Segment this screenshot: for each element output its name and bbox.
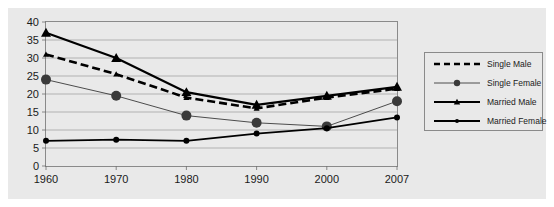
legend-item-single-male[interactable]: Single Male	[434, 59, 532, 69]
data-point	[181, 111, 191, 121]
y-tick-label: 20	[27, 88, 39, 100]
data-point	[111, 91, 121, 101]
series-single-male	[43, 51, 400, 110]
series-line	[46, 54, 397, 108]
legend-item-married-female[interactable]: Married Female	[434, 116, 547, 126]
x-tick-label: 1980	[174, 173, 198, 185]
line-chart: 0510152025303540 19601970198019902000200…	[0, 0, 554, 207]
data-point	[254, 131, 260, 137]
y-tick-label: 15	[27, 106, 39, 118]
y-tick-label: 30	[27, 52, 39, 64]
legend-item-single-female[interactable]: Single Female	[434, 78, 542, 88]
y-tick-label: 5	[33, 142, 39, 154]
y-tick-label: 40	[27, 16, 39, 28]
y-tick-label: 35	[27, 34, 39, 46]
data-point	[41, 28, 51, 37]
y-tick-label: 0	[33, 160, 39, 172]
data-point	[394, 114, 400, 120]
x-tick-label: 2000	[315, 173, 339, 185]
x-axis-labels: 196019701980199020002007	[34, 173, 409, 185]
data-point	[183, 138, 189, 144]
legend-swatch-marker	[455, 119, 459, 123]
legend-label: Single Female	[487, 78, 542, 88]
legend-label: Single Male	[487, 59, 532, 69]
x-tick-label: 1990	[244, 173, 268, 185]
data-point	[43, 138, 49, 144]
legend-item-married-male[interactable]: Married Male	[434, 97, 537, 107]
data-point	[252, 118, 262, 128]
legend-swatch-marker	[454, 80, 460, 86]
data-point	[41, 75, 51, 85]
legend-label: Married Female	[487, 116, 547, 126]
y-tick-label: 25	[27, 70, 39, 82]
data-point	[392, 96, 402, 106]
y-tick-label: 10	[27, 124, 39, 136]
chart-legend: Single MaleSingle FemaleMarried MaleMarr…	[425, 53, 547, 131]
data-point	[113, 137, 119, 143]
x-tick-label: 1960	[34, 173, 58, 185]
series-line	[46, 117, 397, 140]
legend-label: Married Male	[487, 97, 537, 107]
x-tick-label: 1970	[104, 173, 128, 185]
data-point	[324, 125, 330, 131]
series-layer	[41, 28, 402, 144]
chart-screenshot: 0510152025303540 19601970198019902000200…	[0, 0, 554, 207]
y-axis-labels: 0510152025303540	[27, 16, 39, 172]
x-tick-label: 2007	[385, 173, 409, 185]
